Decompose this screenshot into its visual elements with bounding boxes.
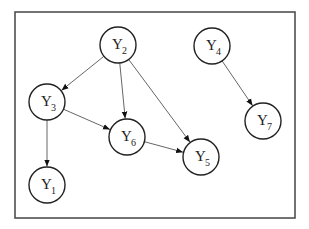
edge-y2-to-y3 [61, 56, 104, 90]
node-subscript: 1 [51, 185, 56, 196]
node-subscript: 6 [131, 137, 136, 148]
node-subscript: 5 [205, 157, 210, 168]
node-y4: Y4 [194, 28, 230, 64]
dag-diagram: Y1Y2Y3Y4Y5Y6Y7 [0, 0, 309, 229]
node-y1: Y1 [29, 167, 65, 203]
node-subscript: 2 [122, 45, 127, 56]
edge-y6-to-y5 [144, 142, 183, 152]
node-subscript: 3 [51, 102, 56, 113]
node-y2: Y2 [100, 27, 136, 63]
node-y7: Y7 [245, 103, 281, 139]
edge-y2-to-y6 [120, 63, 125, 119]
edges-group [47, 56, 253, 166]
node-subscript: 4 [216, 46, 221, 57]
edge-y4-to-y7 [222, 61, 252, 106]
node-y3: Y3 [29, 84, 65, 120]
node-subscript: 7 [267, 121, 272, 132]
edge-y3-to-y6 [63, 109, 110, 129]
node-y5: Y5 [183, 139, 219, 175]
node-y6: Y6 [109, 119, 145, 155]
nodes-group: Y1Y2Y3Y4Y5Y6Y7 [29, 27, 281, 203]
